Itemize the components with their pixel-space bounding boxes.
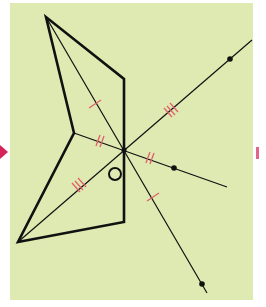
image-point-top bbox=[199, 281, 205, 287]
line-left-vertex-to-image bbox=[74, 133, 227, 187]
center-label-o bbox=[109, 168, 121, 180]
line-top-vertex-to-image bbox=[46, 17, 207, 293]
image-point-left bbox=[171, 165, 177, 171]
center-point bbox=[121, 147, 126, 152]
figure-outline bbox=[18, 17, 124, 242]
geometry-diagram bbox=[0, 0, 266, 307]
image-point-bottom bbox=[227, 56, 233, 62]
line-bottom-vertex-to-image bbox=[18, 40, 252, 242]
